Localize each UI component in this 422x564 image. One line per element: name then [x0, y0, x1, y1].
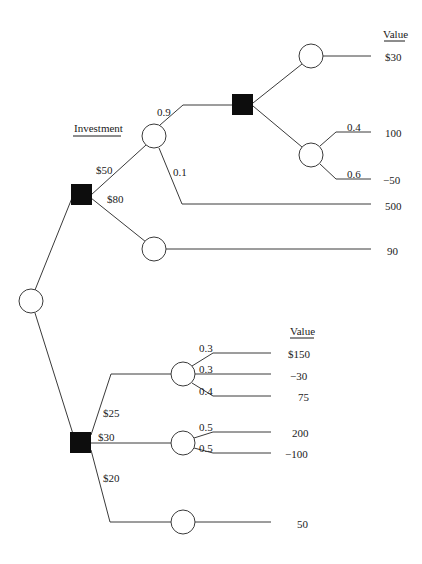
value-200: 200	[292, 427, 309, 439]
edge-invest-20	[91, 450, 171, 522]
value-90: 90	[387, 245, 398, 257]
chance-node-d2-upper	[299, 44, 323, 68]
value-neg-50: −50	[383, 174, 400, 186]
value-header-top: Value	[383, 28, 408, 40]
prob-label-0.5a: 0.5	[199, 421, 213, 433]
prob-label-0.3a: 0.3	[199, 342, 213, 354]
value-75: 75	[298, 391, 309, 403]
value-50: 50	[297, 518, 308, 530]
root-chance-node	[19, 289, 43, 313]
edge-root-to-lower-decision	[35, 313, 73, 434]
chance-node-invest-80	[142, 237, 166, 261]
edge-prob-0.6	[320, 164, 371, 179]
upper-decision-node	[71, 184, 92, 205]
decision-tree-graphic	[0, 0, 422, 564]
edge-prob-0.1	[159, 148, 371, 204]
chance-node-d2-lower	[299, 143, 323, 167]
lower-decision-node	[70, 432, 91, 453]
d2-decision-node	[232, 94, 253, 115]
prob-label-0.4b: 0.4	[199, 385, 213, 397]
prob-label-0.9: 0.9	[157, 106, 171, 118]
edge-invest-25	[91, 374, 171, 435]
prob-label-0.4: 0.4	[347, 121, 361, 133]
edge-prob-0.4	[320, 132, 371, 146]
chance-node-invest-30	[171, 431, 195, 455]
branch-label-25: $25	[103, 407, 120, 419]
value-100: 100	[385, 127, 402, 139]
edge-d2-upper	[253, 64, 302, 103]
value-30: $30	[385, 51, 402, 63]
edge-root-to-upper-decision	[35, 198, 72, 290]
value-header-bottom: Value	[290, 325, 315, 337]
branch-label-30: $30	[98, 431, 115, 443]
prob-label-0.6: 0.6	[347, 168, 361, 180]
prob-label-0.5b: 0.5	[199, 442, 213, 454]
chance-node-invest-50	[142, 124, 166, 148]
chance-node-invest-20	[171, 510, 195, 534]
prob-label-0.3b: 0.3	[199, 363, 213, 375]
branch-label-50: $50	[96, 164, 113, 176]
value-150: $150	[288, 348, 310, 360]
value-neg-100: −100	[285, 448, 308, 460]
investment-header: Investment	[74, 122, 123, 134]
value-neg-30: −30	[290, 370, 307, 382]
branch-label-20: $20	[103, 472, 120, 484]
chance-node-invest-25	[171, 362, 195, 386]
prob-label-0.1: 0.1	[173, 166, 187, 178]
branch-label-80: $80	[107, 193, 124, 205]
value-500: 500	[385, 200, 402, 212]
edge-d2-lower	[253, 106, 302, 147]
